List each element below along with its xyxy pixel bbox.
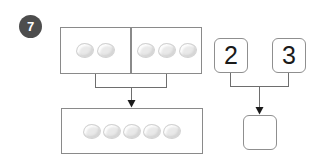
arrowhead-down-right	[256, 107, 264, 115]
number-tile-answer-blank[interactable]	[243, 115, 277, 150]
counter-icon	[123, 124, 141, 139]
question-number-badge: 7	[19, 15, 42, 38]
arrowhead-down-left	[128, 100, 136, 108]
counter-icon	[83, 124, 101, 139]
counter-total-box[interactable]	[61, 108, 203, 154]
counter-group-one-box[interactable]	[60, 27, 131, 74]
counter-group-two-counters	[137, 43, 197, 58]
counter-icon	[163, 124, 181, 139]
counter-icon	[103, 124, 121, 139]
counter-icon	[137, 43, 155, 58]
counter-total-counters	[83, 124, 181, 139]
worksheet-canvas: 7 2 3	[0, 0, 326, 166]
counter-icon	[76, 43, 94, 58]
counter-icon	[143, 124, 161, 139]
counter-icon	[158, 43, 176, 58]
counter-group-two-box[interactable]	[131, 27, 202, 74]
number-tile-addend-one[interactable]: 2	[214, 38, 248, 73]
counter-group-one-counters	[76, 43, 115, 58]
number-tile-addend-two[interactable]: 3	[272, 38, 306, 73]
counter-icon	[97, 43, 115, 58]
counter-icon	[179, 43, 197, 58]
